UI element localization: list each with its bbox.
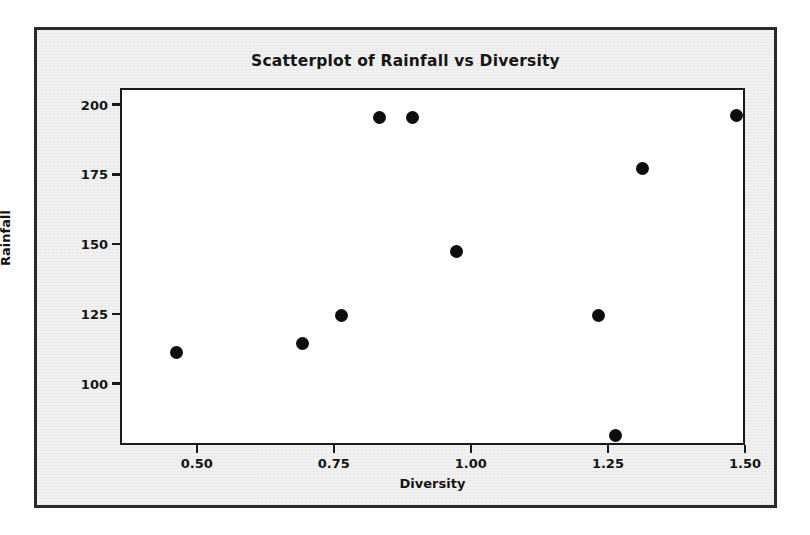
- x-axis-tick-mark: [470, 445, 473, 453]
- x-axis-tick-mark: [744, 445, 747, 453]
- y-axis-tick-label: 175: [48, 167, 108, 182]
- x-axis-title: Diversity: [120, 476, 745, 491]
- y-axis-tick-label: 125: [48, 306, 108, 321]
- plot-area-frame: [120, 88, 745, 445]
- x-axis-tick-mark: [607, 445, 610, 453]
- scatter-point: [730, 109, 743, 122]
- scatter-point: [450, 245, 463, 258]
- x-axis-tick-label: 1.00: [441, 456, 501, 471]
- scatter-point: [373, 111, 386, 124]
- scatter-point: [296, 337, 309, 350]
- scatter-point: [170, 346, 183, 359]
- scatter-points-layer: [122, 90, 743, 443]
- scatter-point: [335, 309, 348, 322]
- scatter-point: [406, 111, 419, 124]
- scatter-point: [609, 429, 622, 442]
- y-axis-tick-mark: [112, 382, 120, 385]
- y-axis-tick-mark: [112, 103, 120, 106]
- scatter-point: [636, 162, 649, 175]
- x-axis-tick-label: 0.75: [304, 456, 364, 471]
- x-axis-tick-label: 1.50: [715, 456, 775, 471]
- x-axis-tick-label: 0.50: [167, 456, 227, 471]
- x-axis-tick-mark: [333, 445, 336, 453]
- y-axis-title: Rainfall: [0, 210, 13, 266]
- figure-canvas: Scatterplot of Rainfall vs Diversity Rai…: [0, 0, 810, 535]
- y-axis-tick-mark: [112, 173, 120, 176]
- y-axis-tick-label: 100: [48, 376, 108, 391]
- y-axis-tick-label: 200: [48, 97, 108, 112]
- y-axis-tick-label: 150: [48, 237, 108, 252]
- scatter-point: [592, 309, 605, 322]
- x-axis-tick-label: 1.25: [578, 456, 638, 471]
- y-axis-tick-mark: [112, 313, 120, 316]
- y-axis-tick-mark: [112, 243, 120, 246]
- x-axis-tick-mark: [196, 445, 199, 453]
- chart-title: Scatterplot of Rainfall vs Diversity: [34, 52, 777, 70]
